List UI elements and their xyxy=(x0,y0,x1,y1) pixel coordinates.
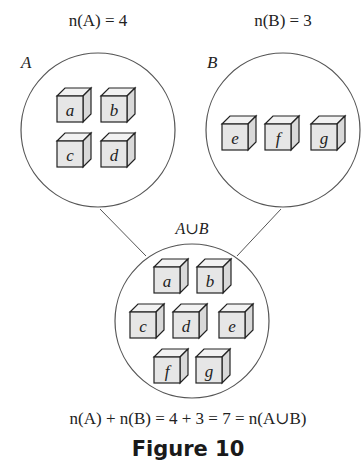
union-elements: a b c d e f g xyxy=(130,259,253,383)
union-cube-b: b xyxy=(197,259,231,293)
union-cube-f: f xyxy=(154,349,188,383)
union-cube-g: g xyxy=(196,349,230,383)
union-cube-c: c xyxy=(130,304,164,338)
figure-caption: Figure 10 xyxy=(132,437,245,461)
set-a-circle xyxy=(21,53,175,207)
count-label-b: n(B) = 3 xyxy=(254,11,312,30)
set-a-label: A xyxy=(20,53,32,72)
equation: n(A) + n(B) = 4 + 3 = 7 = n(A∪B) xyxy=(70,409,307,428)
cube-a: a xyxy=(57,88,91,122)
count-label-a: n(A) = 4 xyxy=(69,11,128,30)
union-cube-a: a xyxy=(154,259,188,293)
connector-line-b xyxy=(237,209,281,256)
svg-text:b: b xyxy=(206,272,215,291)
connector-line-a xyxy=(100,209,146,256)
union-label: A∪B xyxy=(175,220,209,237)
cube-d: d xyxy=(101,133,135,167)
svg-text:a: a xyxy=(163,272,172,291)
cube-e: e xyxy=(222,116,256,150)
union-cube-e: e xyxy=(219,304,253,338)
svg-text:a: a xyxy=(66,101,75,120)
union-cube-d: d xyxy=(173,304,207,338)
svg-text:d: d xyxy=(110,146,119,165)
svg-text:e: e xyxy=(228,317,236,336)
svg-text:e: e xyxy=(231,129,239,148)
cube-c: c xyxy=(57,133,91,167)
svg-text:c: c xyxy=(66,146,74,165)
svg-text:g: g xyxy=(205,362,214,381)
cube-f: f xyxy=(265,116,299,150)
svg-text:g: g xyxy=(320,129,329,148)
union-diagram: n(A) = 4 n(B) = 3 A B A∪B a b c d e f g … xyxy=(0,0,362,463)
set-b-label: B xyxy=(207,53,218,72)
set-b-elements: e f g xyxy=(222,116,345,150)
svg-text:c: c xyxy=(139,317,147,336)
svg-text:b: b xyxy=(110,101,119,120)
cube-g: g xyxy=(311,116,345,150)
set-a-elements: a b c d xyxy=(57,88,135,167)
cube-b: b xyxy=(101,88,135,122)
svg-text:d: d xyxy=(182,317,191,336)
